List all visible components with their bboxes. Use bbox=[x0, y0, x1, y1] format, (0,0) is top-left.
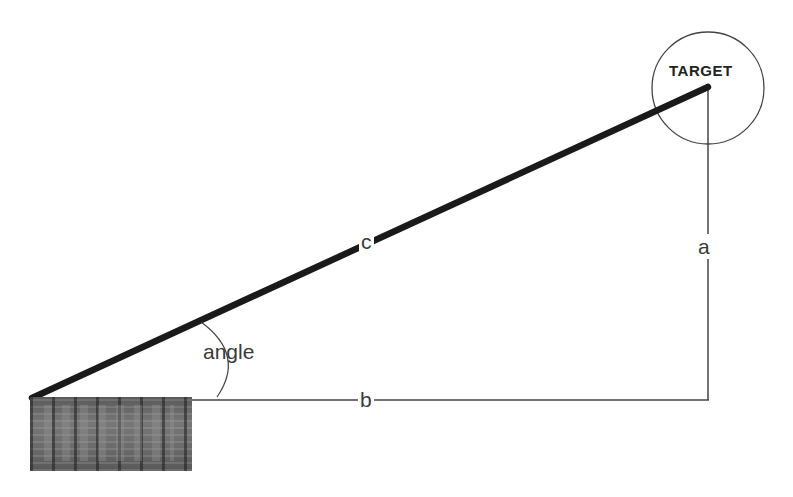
target-label: TARGET bbox=[669, 63, 733, 78]
opposite-side-label: a bbox=[697, 234, 711, 259]
origin-building-image bbox=[30, 397, 192, 471]
diagram-canvas: TARGET c a b angle bbox=[0, 0, 793, 497]
angle-label: angle bbox=[203, 341, 254, 362]
hypotenuse-label: c bbox=[359, 231, 374, 252]
adjacent-side-label: b bbox=[358, 389, 374, 410]
